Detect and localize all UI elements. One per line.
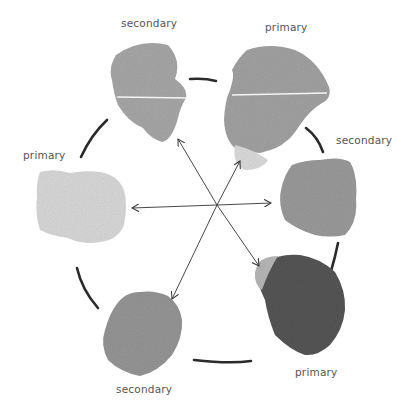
swatch-right [280, 158, 356, 236]
label-top-right: primary [265, 21, 308, 33]
label-left: primary [23, 149, 66, 161]
label-right: secondary [336, 134, 392, 146]
color-wheel-diagram [0, 0, 397, 407]
swatch-left [36, 170, 126, 243]
label-bottom-right: primary [295, 366, 338, 378]
label-top-left: secondary [121, 17, 177, 29]
arrow-topright-bottomleft [217, 161, 240, 205]
swatch-top-left [111, 43, 187, 142]
swatch-bottom-left [103, 292, 182, 377]
arrow-topleft-bottomright [178, 139, 217, 205]
label-bottom-left: secondary [116, 383, 172, 395]
arrow-left-right [132, 205, 217, 208]
